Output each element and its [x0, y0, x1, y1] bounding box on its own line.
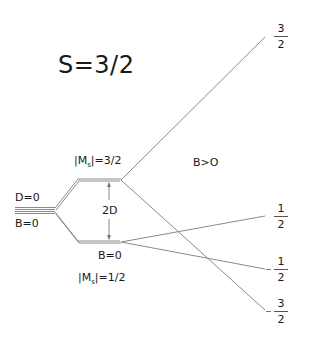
degenerate-level-lines — [15, 208, 55, 214]
zeeman-minus-1-2 — [121, 242, 265, 269]
zeeman-plus-1-2 — [121, 216, 265, 242]
level-plus-3-2: 32 — [274, 23, 288, 50]
zfs-upper-branch — [55, 179, 79, 210]
b-zero-mid-label: B=0 — [98, 250, 122, 261]
diagram-title: S=3/2 — [58, 53, 134, 77]
splitting-2d-label: 2D — [101, 205, 118, 216]
ms-upper-label: |Ms|=3/2 — [74, 155, 122, 166]
ms-lower-label: |Ms|=1/2 — [78, 272, 126, 283]
minus-sign-icon — [266, 269, 271, 270]
level-plus-1-2: 12 — [274, 203, 288, 230]
minus-sign-icon — [266, 311, 271, 312]
energy-level-diagram — [0, 0, 309, 340]
ms-3-2-level — [78, 179, 121, 181]
zfs-lower-branch — [55, 212, 79, 243]
zeeman-minus-3-2 — [121, 180, 265, 310]
level-minus-3-2: 32 — [274, 298, 288, 325]
field-on-label: B>O — [193, 157, 218, 168]
b-zero-left-label: B=0 — [15, 218, 39, 229]
ms-1-2-level — [78, 241, 121, 243]
arrow-head-up-icon — [107, 182, 111, 187]
d-zero-label: D=0 — [15, 192, 40, 203]
arrow-head-down-icon — [107, 235, 111, 240]
level-minus-1-2: 12 — [274, 256, 288, 283]
